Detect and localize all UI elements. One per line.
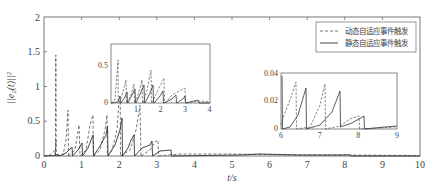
x-tick: 6 <box>267 159 272 170</box>
inset2-x-tick: 6 <box>279 131 283 140</box>
x-tick: 7 <box>305 159 310 170</box>
y-tick: 0.5 <box>28 115 41 126</box>
inset2-x-tick: 7 <box>318 131 322 140</box>
inset2-x-tick: 8 <box>356 131 360 140</box>
y-axis-label: ||e₂(t)||² <box>5 71 17 103</box>
inset2-y-tick: 0 <box>274 124 278 133</box>
inset2-x-tick: 9 <box>395 131 399 140</box>
legend: 动态自适应事件触发 静态自适应事件触发 <box>316 22 416 52</box>
inset1-x-tick: 2 <box>159 105 163 114</box>
y-tick: 2 <box>35 12 40 23</box>
legend-label-dynamic: 动态自适应事件触发 <box>345 26 409 36</box>
x-tick: 0 <box>42 159 47 170</box>
x-tick: 3 <box>154 159 159 170</box>
inset1-x-tick: 3 <box>183 105 187 114</box>
inset1-y-tick: 0.5 <box>98 61 108 70</box>
x-tick: 9 <box>380 159 385 170</box>
legend-label-static: 静态自适应事件触发 <box>345 38 409 48</box>
x-tick: 4 <box>192 159 197 170</box>
x-tick: 5 <box>230 159 235 170</box>
x-tick: 2 <box>117 159 122 170</box>
inset2-y-tick: 0.02 <box>264 96 278 105</box>
x-tick: 8 <box>342 159 347 170</box>
x-tick: 1 <box>79 159 84 170</box>
inset-late: 0 0.02 0.04 6 7 8 9 <box>264 69 399 140</box>
inset1-y-tick: 0 <box>104 98 108 107</box>
error-norm-chart: 0 0.5 1 1.5 2 0 1 2 3 4 5 6 7 8 9 10 t/s… <box>0 0 434 187</box>
x-axis-label: t/s <box>227 172 237 183</box>
inset2-y-tick: 0.04 <box>264 69 278 78</box>
y-tick: 0 <box>35 150 40 161</box>
inset1-x-tick: 1 <box>134 105 138 114</box>
x-tick: 10 <box>415 159 425 170</box>
inset1-x-tick: 4 <box>208 105 212 114</box>
inset-early: 0 0.5 1 2 3 4 <box>98 44 212 114</box>
y-tick: 1 <box>35 81 40 92</box>
y-tick: 1.5 <box>28 46 41 57</box>
